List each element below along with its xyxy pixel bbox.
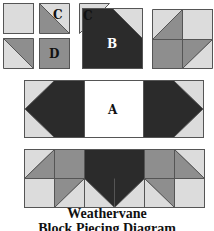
piecing-diagram: C D C B A	[0, 0, 214, 231]
label-d: D	[49, 47, 59, 61]
label-b: B	[107, 37, 117, 51]
label-c-triangle: C	[83, 9, 93, 23]
four-patch-unit	[153, 10, 213, 69]
hst-plain-unit	[4, 39, 34, 69]
row-bottom	[25, 150, 205, 208]
diagram-title: Weathervane	[0, 206, 214, 222]
label-a: A	[107, 103, 118, 117]
plain-square-unit	[4, 4, 34, 34]
label-c-hst: C	[53, 8, 63, 22]
diagram-subtitle: Block Piecing Diagram	[0, 221, 214, 231]
